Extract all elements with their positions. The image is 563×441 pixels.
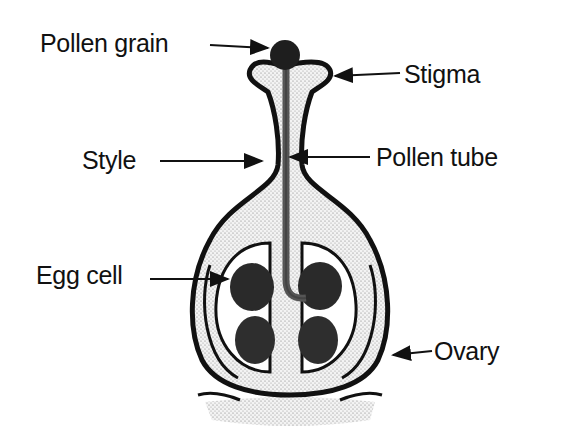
leader-ovary xyxy=(393,351,432,355)
receptacle-base xyxy=(205,397,375,426)
pollen-grain xyxy=(270,40,300,70)
label-style: Style xyxy=(82,148,136,173)
label-stigma: Stigma xyxy=(404,62,480,87)
egg-cell-lower-left xyxy=(235,316,275,364)
leader-stigma xyxy=(335,73,400,76)
label-pollen-tube: Pollen tube xyxy=(376,145,498,170)
sepal-left xyxy=(198,393,240,400)
pistil-outline xyxy=(192,62,387,395)
label-ovary: Ovary xyxy=(434,339,499,364)
leader-pollen-grain xyxy=(210,45,268,48)
label-pollen-grain: Pollen grain xyxy=(40,31,168,56)
sepal-right xyxy=(340,393,382,400)
egg-cell-upper-right xyxy=(298,262,342,310)
egg-cell-upper-left xyxy=(230,263,274,311)
pistil-diagram: Pollen grain Stigma Style Pollen tube Eg… xyxy=(0,0,563,441)
label-egg-cell: Egg cell xyxy=(36,263,123,288)
egg-cell-lower-right xyxy=(298,316,338,364)
